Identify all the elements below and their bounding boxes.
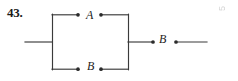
circuit-wires bbox=[25, 14, 207, 70]
scanned-figure-page: 43. A B B 5 bbox=[0, 0, 238, 81]
node-series-left-terminal bbox=[151, 40, 155, 44]
node-bottom-left-terminal bbox=[76, 67, 80, 71]
switch-label-b-series: B bbox=[159, 33, 166, 45]
node-bottom-right-terminal bbox=[99, 67, 103, 71]
node-top-left-terminal bbox=[76, 13, 80, 17]
switch-label-b-bottom: B bbox=[87, 60, 94, 72]
scan-corner-artifact: 5 bbox=[217, 2, 228, 15]
node-series-right-terminal bbox=[174, 40, 178, 44]
switching-circuit-diagram bbox=[0, 0, 238, 81]
node-top-right-terminal bbox=[99, 13, 103, 17]
switch-label-a-top: A bbox=[86, 9, 93, 21]
